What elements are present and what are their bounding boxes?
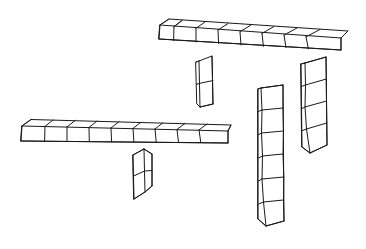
wireframe-sketch [0,0,366,249]
diagram-canvas [0,0,366,249]
shape-top-horizontal-bar [159,19,348,50]
shape-left-horizontal-bar [21,120,231,144]
shape-tall-right-column [258,85,284,226]
shape-far-right-column [301,57,327,153]
shape-upper-middle-stub [196,56,213,107]
shape-lower-middle-stub [133,149,152,199]
